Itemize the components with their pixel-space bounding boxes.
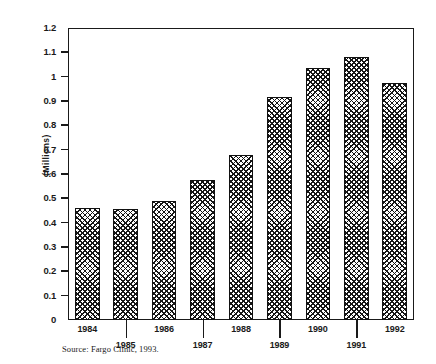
x-label-leader-line xyxy=(126,320,127,338)
y-tick-label: 0.1 xyxy=(43,290,56,301)
y-tick-label: 1.2 xyxy=(43,22,56,33)
y-tick-label: 0.3 xyxy=(43,241,56,252)
y-tick-mark xyxy=(61,197,68,199)
y-tick-mark xyxy=(61,246,68,248)
y-tick-mark xyxy=(61,76,68,78)
x-axis-label: 1992 xyxy=(375,324,415,334)
y-tick-label: 0.7 xyxy=(43,144,56,155)
x-axis-label: 1987 xyxy=(183,340,223,350)
y-tick-mark xyxy=(61,222,68,224)
y-tick-label: 1.1 xyxy=(43,46,56,57)
y-tick-mark xyxy=(61,51,68,53)
y-tick-label: 1 xyxy=(51,71,56,82)
bar xyxy=(152,201,177,320)
bar xyxy=(229,155,254,320)
bar xyxy=(344,57,369,320)
bar xyxy=(75,208,100,320)
bar xyxy=(113,209,138,320)
x-axis-label: 1990 xyxy=(298,324,338,334)
bar xyxy=(190,180,215,320)
y-tick-mark xyxy=(61,100,68,102)
bar xyxy=(382,83,407,320)
y-tick-label: 0.6 xyxy=(43,168,56,179)
x-axis-label: 1986 xyxy=(144,324,184,334)
y-tick-label: 0.9 xyxy=(43,95,56,106)
y-tick-mark xyxy=(61,295,68,297)
x-axis-label: 1984 xyxy=(67,324,107,334)
x-axis-label: 1991 xyxy=(336,340,376,350)
x-label-leader-line xyxy=(356,320,357,338)
y-tick-mark xyxy=(61,124,68,126)
bar xyxy=(267,97,292,320)
bar-chart-figure: (Millions) 00.10.20.30.40.50.60.70.80.91… xyxy=(0,0,436,364)
y-tick-label: 0.4 xyxy=(43,217,56,228)
bars-layer xyxy=(68,28,414,320)
y-tick-label: 0.5 xyxy=(43,192,56,203)
y-tick-mark xyxy=(61,149,68,151)
x-label-leader-line xyxy=(203,320,204,338)
y-tick-label: 0.2 xyxy=(43,265,56,276)
x-axis-label: 1989 xyxy=(259,340,299,350)
source-note: Source: Fargo Clinic, 1993. xyxy=(62,344,159,354)
bar xyxy=(306,68,331,320)
y-tick-mark xyxy=(61,270,68,272)
x-axis-label: 1988 xyxy=(221,324,261,334)
y-tick-label: 0 xyxy=(51,314,56,325)
y-tick-mark xyxy=(61,173,68,175)
x-label-leader-line xyxy=(279,320,280,338)
y-tick-label: 0.8 xyxy=(43,119,56,130)
